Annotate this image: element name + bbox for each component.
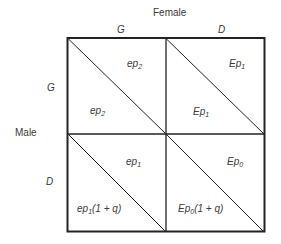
diagonal-dd — [166, 134, 263, 231]
diagonal-dg — [68, 134, 165, 231]
column-header-d: D — [218, 25, 225, 35]
payoff-grid — [0, 0, 281, 244]
row-header-d: D — [46, 177, 53, 187]
cell-dd-upper: Ep0 — [227, 157, 243, 168]
diagonal-gd — [166, 39, 264, 135]
cell-gg-upper: ep2 — [127, 59, 142, 70]
cell-gd-lower: Ep1 — [193, 107, 209, 118]
column-header-g: G — [117, 25, 125, 35]
cell-dd-lower: Ep0(1 + q) — [178, 204, 223, 215]
cell-dg-upper: ep1 — [126, 157, 141, 168]
diagonal-gg — [68, 39, 166, 135]
row-axis-title: Male — [15, 128, 37, 138]
cell-dg-lower: ep1(1 + q) — [77, 204, 121, 215]
row-header-g: G — [47, 83, 55, 93]
cell-gg-lower: ep2 — [90, 106, 105, 117]
cell-gd-upper: Ep1 — [229, 59, 245, 70]
column-axis-title: Female — [153, 8, 186, 18]
